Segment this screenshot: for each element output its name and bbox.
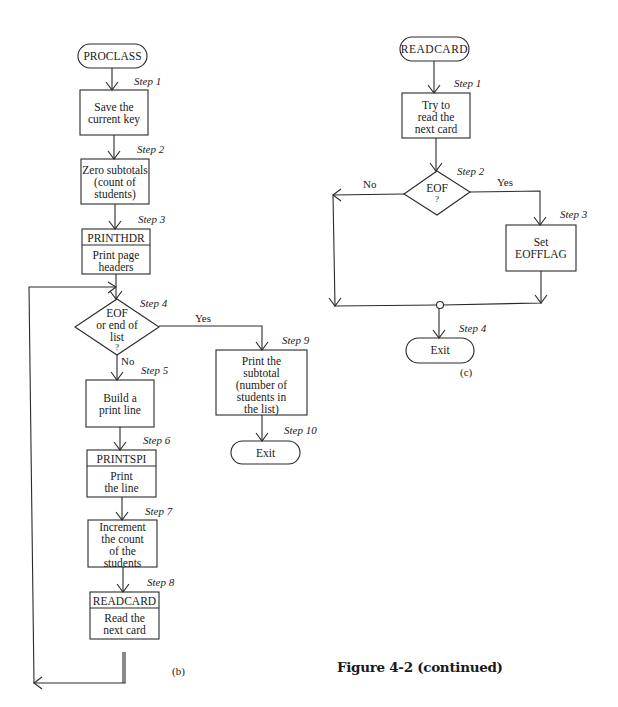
terminal-exit-b: Exit <box>231 447 300 459</box>
process-text: Try to <box>402 99 470 111</box>
decision-text: EOF <box>87 307 147 319</box>
terminal-exit-c: Exit <box>406 344 474 356</box>
subroutine-header-printhdr: PRINTHDR <box>82 232 150 244</box>
figure-caption: Figure 4-2 (continued) <box>337 659 503 675</box>
step-label: Step 2 <box>137 143 164 155</box>
no-label: No <box>363 178 376 190</box>
decision-text: ? <box>417 194 457 204</box>
process-text: Print page <box>82 249 150 261</box>
process-box-try-read-card: Try to read the next card <box>402 99 470 135</box>
process-text: (number of <box>216 379 307 391</box>
yes-label: Yes <box>195 312 211 324</box>
subroutine-header-readcard: READCARD <box>90 595 159 607</box>
step-label: Step 1 <box>454 77 481 89</box>
step-label: Step 5 <box>141 364 168 376</box>
process-box-build-print-line: Build a print line <box>86 392 154 416</box>
yes-label: Yes <box>497 176 513 188</box>
decision-text: ? <box>87 343 147 352</box>
process-text: Save the <box>80 101 148 113</box>
process-text: students in <box>216 391 307 403</box>
process-box-zero-subtotals: Zero subtotals (count of students) <box>81 164 149 200</box>
process-box-set-eofflag: Set EOFFLAG <box>506 236 576 260</box>
process-text: Read the <box>90 612 159 624</box>
process-text: Print <box>87 470 156 482</box>
process-text: next card <box>90 624 159 636</box>
process-text: current key <box>80 113 148 125</box>
decision-text: or end of <box>87 319 147 331</box>
process-text: (count of <box>81 176 149 188</box>
step-label: Step 3 <box>560 208 587 220</box>
decision-eof-end-of-list: EOF or end of list ? <box>87 307 147 352</box>
subroutine-header-printspi: PRINTSPI <box>87 453 156 465</box>
step-label: Step 1 <box>134 75 161 87</box>
step-label: Step 6 <box>143 434 170 446</box>
step-label: Step 2 <box>457 165 484 177</box>
caption-b: (b) <box>172 665 185 677</box>
process-text: next card <box>402 123 470 135</box>
caption-c: (c) <box>460 366 472 378</box>
step-label: Step 9 <box>282 334 309 346</box>
step-label: Step 10 <box>284 424 317 436</box>
process-text: headers <box>82 261 150 273</box>
subroutine-box-printhdr: Print page headers <box>82 249 150 273</box>
process-text: students) <box>81 188 149 200</box>
process-text: Set <box>506 236 576 248</box>
subroutine-box-printspi: Print the line <box>87 470 156 494</box>
process-text: Print the <box>216 355 307 367</box>
terminal-proclass: PROCLASS <box>78 50 147 62</box>
process-text: EOFFLAG <box>506 248 576 260</box>
process-text: Increment <box>88 521 157 533</box>
process-text: read the <box>402 111 470 123</box>
process-text: Build a <box>86 392 154 404</box>
decision-eof: EOF ? <box>417 182 457 204</box>
process-text: print line <box>86 404 154 416</box>
step-label: Step 8 <box>147 576 174 588</box>
step-label: Step 4 <box>459 322 486 334</box>
subroutine-box-readcard: Read the next card <box>90 612 159 636</box>
process-box-print-subtotal: Print the subtotal (number of students i… <box>216 355 307 415</box>
process-text: the list) <box>216 403 307 415</box>
step-label: Step 3 <box>138 213 165 225</box>
step-label: Step 7 <box>145 505 172 517</box>
process-box-increment-count: Increment the count of the students <box>88 521 157 569</box>
decision-text: EOF <box>417 182 457 194</box>
process-text: the line <box>87 482 156 494</box>
process-text: subtotal <box>216 367 307 379</box>
process-box-save-key: Save the current key <box>80 101 148 125</box>
process-text: students <box>88 557 157 569</box>
process-text: of the <box>88 545 157 557</box>
terminal-readcard: READCARD <box>400 43 469 55</box>
process-text: the count <box>88 533 157 545</box>
no-label: No <box>121 355 134 367</box>
process-text: Zero subtotals <box>81 164 149 176</box>
